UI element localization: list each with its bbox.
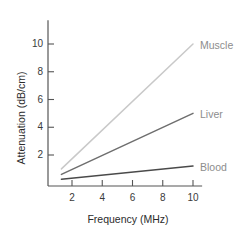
series-label-liver: Liver [200,108,223,120]
series-line-blood [61,166,193,179]
series-label-blood: Blood [200,161,227,173]
series-line-muscle [61,44,193,169]
x-tick-label: 2 [64,193,80,203]
x-tick-label: 6 [125,193,141,203]
axes-group [48,20,202,186]
series-line-liver [61,113,193,174]
x-tick-label: 10 [185,193,201,203]
attenuation-vs-frequency-chart: 246810 246810 MuscleLiverBlood Attenuati… [0,0,248,233]
y-axis-title: Attenuation (dB/cm) [15,53,27,183]
x-tick-label: 4 [94,193,110,203]
series-label-muscle: Muscle [200,39,233,51]
series-lines [61,44,193,179]
x-tick-label: 8 [155,193,171,203]
x-axis-title: Frequency (MHz) [58,213,198,225]
y-tick-label: 10 [21,39,43,49]
